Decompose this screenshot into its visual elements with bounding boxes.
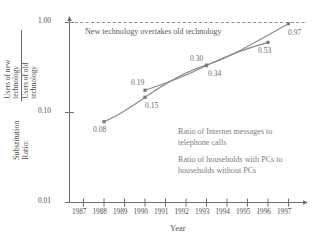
x-axis-arrow [303, 200, 308, 205]
series-note-pc-line2: households without PCs [178, 166, 256, 175]
x-tick-label-1991: 1991 [154, 208, 168, 216]
data-label-internet-1991: 0.15 [145, 102, 158, 111]
data-label-internet-1997: 0.97 [288, 29, 301, 38]
x-tick-label-1988: 1988 [93, 208, 107, 216]
y-tick-label-0-01: 0.01 [38, 197, 51, 206]
y-tick-label-0-10: 0.10 [38, 107, 51, 116]
x-tick-label-1990: 1990 [134, 208, 148, 216]
x-tick-label-1997: 1997 [277, 208, 291, 216]
series-note-internet-line1: Ratio of Internet messages to [178, 127, 272, 136]
y-tick-label-1-00: 1.00 [38, 17, 51, 26]
x-tick-label-1994: 1994 [216, 208, 230, 216]
data-label-internet-1988: 0.08 [93, 126, 106, 135]
series-internet-line [104, 24, 289, 122]
series-note-internet-line2: telephone calls [178, 138, 226, 147]
data-label-pc-1993: 0.30 [190, 55, 203, 64]
x-tick-label-1992: 1992 [175, 208, 189, 216]
data-label-pc-1996: 0.53 [258, 47, 271, 56]
y-axis-title: Substitution Ratio: Users of new technol… [0, 30, 42, 160]
y-axis-title-denominator: Users of old technology [22, 30, 39, 101]
y-axis-arrow [67, 16, 72, 21]
x-tick-label-1987: 1987 [72, 208, 86, 216]
y-axis-title-prefix: Substitution Ratio: [12, 104, 30, 160]
series-note-pc-line1: Ratio of households with PCs to [178, 155, 283, 164]
reference-line-annotation: New technology overtakes old technology [85, 27, 222, 36]
x-tick-label-1995: 1995 [236, 208, 250, 216]
data-label-internet-1994: 0.34 [208, 70, 221, 79]
series-internet-points [102, 22, 290, 123]
data-label-pc-1990: 0.19 [131, 79, 144, 88]
y-axis-title-numerator: Users of new technology [4, 30, 21, 101]
x-tick-label-1989: 1989 [113, 208, 127, 216]
x-axis-title: Year [170, 224, 185, 234]
chart-figure: Substitution Ratio: Users of new technol… [0, 0, 315, 247]
x-tick-label-1996: 1996 [257, 208, 271, 216]
x-tick-label-1993: 1993 [195, 208, 209, 216]
y-axis-title-fraction: Users of new technology Users of old tec… [4, 30, 38, 101]
